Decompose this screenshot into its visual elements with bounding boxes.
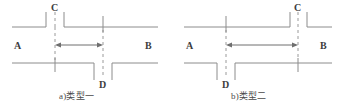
panel-b-bottom-edge-left — [184, 63, 217, 80]
panel-b-label-d: D — [222, 79, 229, 90]
panel-a-bottom-edge-left — [12, 63, 94, 80]
intersection-diagram: A B C D A B — [0, 0, 344, 110]
panel-b-label-c: C — [294, 2, 301, 13]
panel-a-bottom-edge-right — [112, 63, 158, 80]
panel-a-top-edge-right — [64, 12, 158, 27]
panel-b-group: A B C D — [184, 2, 332, 90]
panel-a-label-a: A — [14, 40, 22, 51]
panel-b-top-edge-left — [184, 12, 290, 27]
panel-a-offset-arrowhead-left — [55, 43, 61, 48]
panel-b-offset-arrowhead-left — [226, 43, 232, 48]
panel-b-top-edge-right — [307, 12, 332, 27]
panel-a-label-c: C — [51, 2, 58, 13]
panel-b-label-a: A — [186, 40, 194, 51]
panel-a-group: A B C D — [12, 2, 158, 90]
panel-a-label-b: B — [145, 40, 152, 51]
panel-a-offset-arrowhead-right — [97, 43, 103, 48]
panel-b-bottom-edge-right — [235, 63, 332, 80]
panel-b-label-b: B — [320, 40, 327, 51]
panel-a-top-edge-left — [12, 12, 46, 27]
panel-a-label-d: D — [99, 79, 106, 90]
figure-root: A B C D A B — [0, 0, 344, 110]
panel-b-offset-arrowhead-right — [292, 43, 298, 48]
